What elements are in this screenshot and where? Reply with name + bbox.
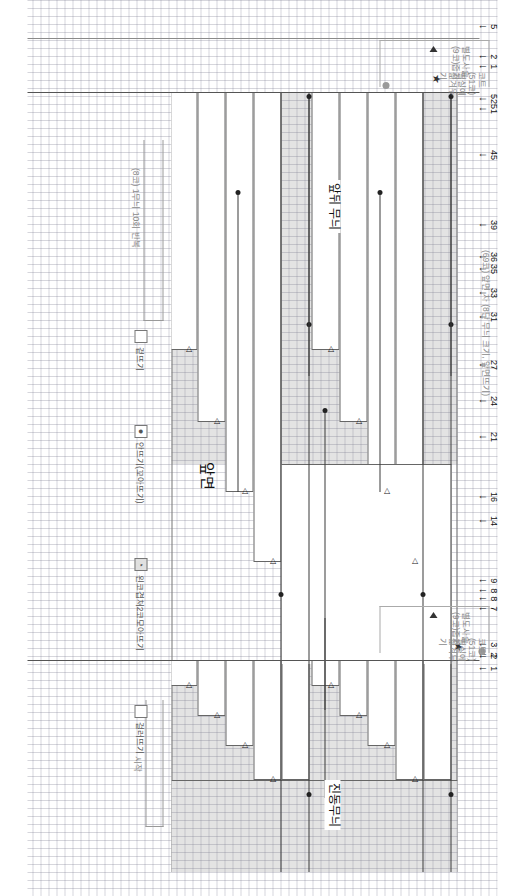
note-left-2: 코트 (51코) 별실에 옮겨두기 [436, 72, 485, 98]
legend: 겉뜨기 ● 안뜨기(꼬아뜨기) ◔ 왼코겹쳐2코모아뜨기 걸러뜨기 [125, 330, 147, 754]
top-tick: 16↓ [478, 492, 497, 502]
legend-item: ● 안뜨기(꼬아뜨기) [134, 425, 147, 504]
chart-canvas: ◁ ◁ ◁ ◁ ◁ ◁ ◁ ◁ ◁ ◁ ◁ ◁ ◁ ◁ ◁ ◁ [0, 0, 515, 896]
repeat-bracket [143, 140, 163, 321]
guide-line-3 [379, 192, 380, 492]
guide-line-2 [308, 96, 309, 376]
legend-label: 걸러뜨기 [135, 722, 147, 754]
guide-line-4 [237, 192, 238, 492]
triangle-marker-lower [429, 612, 437, 618]
section-divider-mid [27, 660, 479, 661]
legend-item: 걸러뜨기 [134, 705, 147, 754]
section-divider-left [27, 92, 479, 93]
page-title: 앞뒤 무늬 [324, 180, 340, 233]
repeat-note: (8코) 1무늬 10회 반복 [129, 168, 139, 248]
legend-item: ◔ 왼코겹쳐2코모아뜨기 [134, 558, 147, 652]
stitch-left-decrease-icon: ◔ [134, 558, 147, 571]
top-tick: 24↓ [478, 396, 497, 406]
stitch-purl-twisted-icon: ● [134, 425, 147, 438]
stitch-knit-icon [134, 330, 147, 343]
center-note: (69코) 앞면 차 (8단 무늬 크기, 앞면뜨기) [479, 250, 489, 396]
side-tick: 5↓ [478, 24, 497, 30]
brace-anchor-dot-upper [382, 82, 389, 89]
guide-line-6 [324, 618, 325, 798]
note-left-4: 코트 (51코) 별실에 옮겨두기 [436, 638, 485, 664]
start-label: 시작 [131, 756, 141, 772]
legend-label: 안뜨기(꼬아뜨기) [135, 442, 147, 504]
top-tick: 8↓ [478, 588, 497, 594]
start-bracket [145, 700, 163, 827]
legend-label: 겉뜨기 [135, 347, 147, 371]
triangle-marker-upper [429, 46, 437, 52]
top-tick: 45↓ [478, 150, 497, 160]
center-side-label: 앞면 [198, 462, 215, 490]
top-tick: 51↓ [478, 104, 497, 114]
top-tick: 14↓ [478, 516, 497, 526]
top-tick: 21↓ [478, 432, 497, 442]
top-tick: 39↓ [478, 220, 497, 230]
outer-frame-left [27, 38, 479, 39]
stitch-slip-icon [134, 705, 147, 718]
top-tick: 9↓ [478, 578, 497, 584]
legend-label: 왼코겹쳐2코모아뜨기 [135, 575, 147, 652]
guide-line-1 [450, 96, 451, 376]
legend-item: 겉뜨기 [134, 330, 147, 371]
bottom-section-label: 진동무늬 [324, 780, 340, 830]
top-tick-group: 52↓ 51↓ 45↓ 39↓ 36↓ 35↓ 33↓ 31↓ 27↓ 24↓ … [457, 92, 497, 882]
side-tick: 8↓ [478, 596, 497, 602]
